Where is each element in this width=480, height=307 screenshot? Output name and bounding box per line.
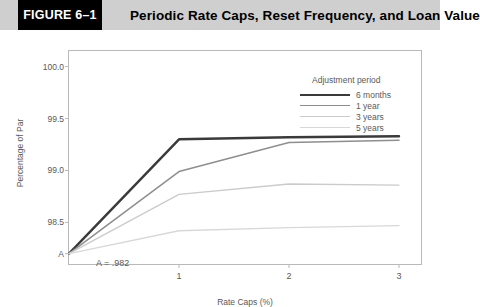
legend-row: 3 years (300, 111, 418, 122)
x-tick-label: 1 (176, 271, 181, 281)
legend-rows: 6 months1 year3 years5 years (300, 89, 418, 133)
figure-header: FIGURE 6–1 Periodic Rate Caps, Reset Fre… (0, 0, 440, 30)
x-axis-title: Rate Caps (%) (68, 297, 422, 307)
legend-label: 5 years (356, 123, 384, 133)
legend-label: 6 months (356, 90, 391, 100)
figure-number-box: FIGURE 6–1 (18, 0, 102, 30)
x-tick-label: 2 (286, 271, 291, 281)
legend-row: 1 year (300, 100, 418, 111)
chart-legend: Adjustment period 6 months1 year3 years5… (300, 75, 418, 133)
legend-title: Adjustment period (312, 75, 418, 85)
y-tick-label: 99.0 (20, 165, 64, 175)
plot-annotation: A = .982 (96, 258, 129, 268)
legend-label: 3 years (356, 112, 384, 122)
footer-note (6, 288, 306, 294)
legend-swatch-line (300, 94, 350, 96)
y-tick-label: 99.5 (20, 114, 64, 124)
y-tick-label: 100.0 (20, 62, 64, 72)
legend-swatch-line (300, 127, 350, 128)
legend-row: 5 years (300, 122, 418, 133)
legend-swatch-line (300, 105, 350, 106)
y-tick-label: 98.5 (20, 217, 64, 227)
y-axis-title: Percentage of Par (15, 103, 25, 203)
x-tick-label: 3 (396, 271, 401, 281)
chart-region: A98.599.099.5100.0 123 Rate Caps (%) Per… (0, 30, 440, 294)
figure-title: Periodic Rate Caps, Reset Frequency, and… (130, 0, 480, 30)
legend-label: 1 year (356, 101, 380, 111)
legend-swatch-line (300, 116, 350, 117)
legend-row: 6 months (300, 89, 418, 100)
y-tick-label: A (20, 249, 64, 259)
figure-number-label: FIGURE 6–1 (23, 8, 97, 22)
